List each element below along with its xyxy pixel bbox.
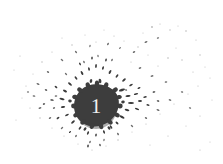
ink-splatter-graphic (0, 0, 223, 164)
ink-splatter-artwork: 1 (0, 0, 223, 164)
canvas-background (0, 0, 223, 164)
